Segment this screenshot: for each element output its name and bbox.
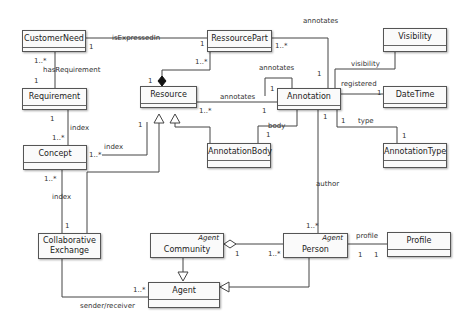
- multiplicity: 1: [341, 117, 345, 125]
- multiplicity: 1: [377, 89, 381, 97]
- class-name: RessourcePart: [208, 31, 271, 48]
- class-name-line2: Exchange: [39, 246, 100, 256]
- multiplicity: 1: [317, 70, 321, 78]
- multiplicity: 1: [235, 250, 239, 258]
- assoc-label-resource-annotates: annotates: [220, 93, 255, 101]
- class-stereotype: Agent: [151, 234, 223, 243]
- class-concept[interactable]: Concept: [23, 145, 87, 170]
- class-attributes: [388, 250, 450, 255]
- class-name: DateTime: [384, 87, 446, 104]
- assoc-label-has-requirement: hasRequirement: [43, 66, 100, 74]
- class-name: Profile: [388, 233, 450, 250]
- class-name: Collaborative Exchange: [39, 234, 100, 258]
- assoc-label-self-annotates: annotates: [259, 64, 294, 72]
- class-attributes: [141, 104, 196, 109]
- class-customer-need[interactable]: CustomerNeed: [22, 30, 86, 52]
- class-visibility[interactable]: Visibility: [383, 28, 447, 52]
- class-name: Agent: [149, 283, 219, 300]
- multiplicity: 1: [358, 251, 362, 259]
- class-attributes: [23, 48, 85, 53]
- multiplicity: 1: [200, 40, 204, 48]
- class-person[interactable]: Agent Person: [283, 233, 348, 258]
- class-name: Resource: [141, 87, 196, 104]
- class-name: Visibility: [384, 29, 446, 46]
- multiplicity: 1: [148, 77, 152, 85]
- class-attributes: [24, 163, 86, 168]
- assoc-label-annotates: annotates: [303, 17, 338, 25]
- assoc-label-profile: profile: [356, 232, 378, 240]
- class-community[interactable]: Agent Community: [150, 233, 224, 258]
- class-resource[interactable]: Resource: [140, 86, 197, 108]
- class-name: Annotation: [278, 89, 340, 106]
- class-name-line1: Collaborative: [39, 236, 100, 246]
- multiplicity: 1: [138, 121, 142, 129]
- class-name: AnnotationType: [384, 144, 446, 161]
- assoc-label-author: author: [316, 180, 339, 188]
- assoc-label-index: index: [104, 143, 123, 151]
- multiplicity: 1..*: [275, 42, 287, 50]
- multiplicity: 1: [34, 77, 38, 85]
- multiplicity: 1..*: [44, 175, 56, 183]
- class-name: CustomerNeed: [23, 31, 85, 48]
- multiplicity: 1: [262, 107, 266, 115]
- multiplicity: 1..*: [268, 250, 280, 258]
- class-stereotype: Agent: [284, 234, 347, 243]
- assoc-label-index: index: [70, 124, 89, 132]
- multiplicity: 1..*: [199, 107, 211, 115]
- multiplicity: 1: [65, 222, 69, 230]
- multiplicity: 1..*: [306, 222, 318, 230]
- multiplicity: 1..*: [133, 286, 145, 294]
- class-requirement[interactable]: Requirement: [22, 88, 87, 110]
- class-attributes: [208, 48, 271, 53]
- multiplicity: 1: [89, 43, 93, 51]
- class-name: Concept: [24, 146, 86, 163]
- class-attributes: [384, 104, 446, 109]
- class-attributes: [384, 46, 446, 51]
- multiplicity: 1: [323, 113, 327, 121]
- class-name: Person: [284, 243, 347, 257]
- class-collaborative-exchange[interactable]: Collaborative Exchange: [38, 233, 101, 259]
- class-profile[interactable]: Profile: [387, 232, 451, 257]
- class-attributes: [384, 161, 446, 166]
- assoc-label-visibility: visibility: [351, 60, 380, 68]
- class-attributes: [23, 106, 86, 111]
- assoc-label-registered: registered: [341, 80, 377, 88]
- class-agent[interactable]: Agent: [148, 282, 220, 308]
- multiplicity: 1..*: [195, 58, 207, 66]
- class-attributes: [149, 300, 219, 305]
- class-attributes: [278, 106, 340, 111]
- multiplicity: 1..*: [34, 57, 46, 65]
- class-annotation-body[interactable]: AnnotationBody: [207, 143, 271, 168]
- multiplicity: 1: [266, 131, 270, 139]
- assoc-label-sender-receiver: sender/receiver: [80, 302, 135, 310]
- assoc-label-type: type: [358, 117, 374, 125]
- multiplicity: 1: [270, 85, 274, 93]
- multiplicity: 1..*: [52, 134, 64, 142]
- class-name: Community: [151, 243, 223, 257]
- assoc-label-is-expressed-in: isExpressedIn: [112, 34, 160, 42]
- class-name: Requirement: [23, 89, 86, 106]
- class-annotation[interactable]: Annotation: [277, 88, 341, 110]
- multiplicity: 1: [50, 115, 54, 123]
- class-ressource-part[interactable]: RessourcePart: [207, 30, 272, 52]
- class-attributes: [208, 161, 270, 166]
- multiplicity: 1: [374, 251, 378, 259]
- assoc-label-body: body: [268, 122, 285, 130]
- multiplicity: 1: [402, 132, 406, 140]
- class-date-time[interactable]: DateTime: [383, 86, 447, 108]
- class-name: AnnotationBody: [208, 144, 270, 161]
- class-annotation-type[interactable]: AnnotationType: [383, 143, 447, 168]
- multiplicity: 1..*: [89, 151, 101, 159]
- assoc-label-index: index: [52, 193, 71, 201]
